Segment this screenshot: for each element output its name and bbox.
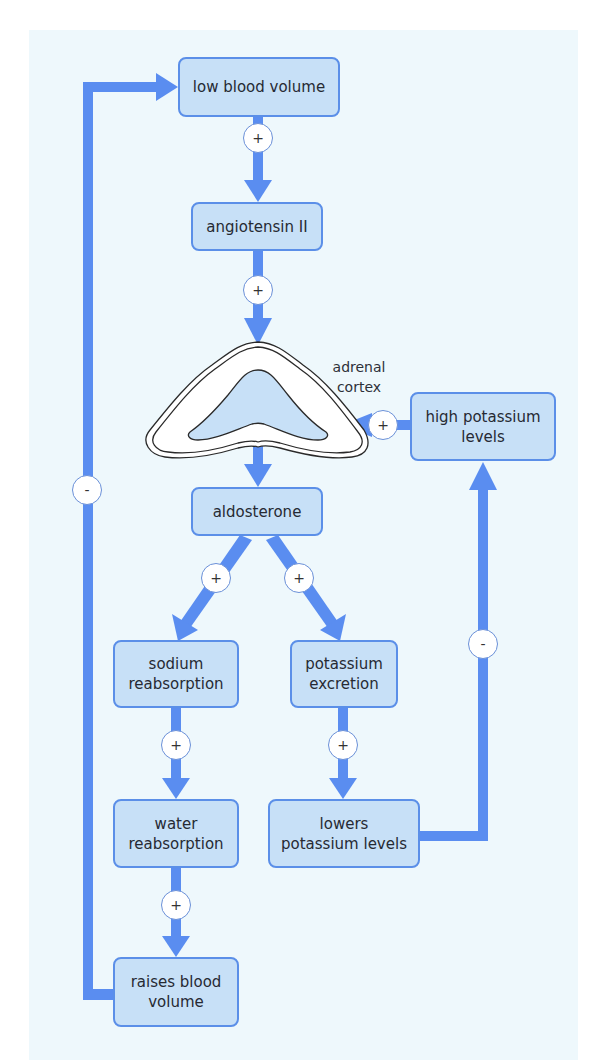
plus-sign-icon: + xyxy=(161,730,191,760)
node-label: aldosterone xyxy=(213,502,302,522)
node-label: raises blood volume xyxy=(131,972,222,1012)
node-water-reabsorption: water reabsorption xyxy=(113,799,239,868)
minus-sign-icon: - xyxy=(468,629,498,659)
plus-sign-icon: + xyxy=(328,730,358,760)
node-lowers-potassium-levels: lowers potassium levels xyxy=(268,799,420,868)
minus-sign-icon: - xyxy=(72,475,102,505)
node-label: lowers potassium levels xyxy=(281,814,407,854)
node-label: high potassium levels xyxy=(425,407,540,447)
node-sodium-reabsorption: sodium reabsorption xyxy=(113,640,239,708)
plus-sign-icon: + xyxy=(201,563,231,593)
node-label: angiotensin II xyxy=(206,217,307,237)
node-angiotensin-ii: angiotensin II xyxy=(191,202,323,251)
node-label: low blood volume xyxy=(193,77,325,97)
plus-sign-icon: + xyxy=(161,890,191,920)
node-label: potassium excretion xyxy=(305,654,383,694)
node-raises-blood-volume: raises blood volume xyxy=(113,957,239,1027)
node-low-blood-volume: low blood volume xyxy=(178,57,340,117)
plus-sign-icon: + xyxy=(284,563,314,593)
node-potassium-excretion: potassium excretion xyxy=(290,640,398,708)
plus-sign-icon: + xyxy=(243,123,273,153)
plus-sign-icon: + xyxy=(243,275,273,305)
node-high-potassium-levels: high potassium levels xyxy=(410,392,556,461)
adrenal-cortex-label: adrenal cortex xyxy=(322,357,396,397)
node-label: sodium reabsorption xyxy=(128,654,223,694)
node-label: water reabsorption xyxy=(128,814,223,854)
plus-sign-icon: + xyxy=(368,410,398,440)
node-aldosterone: aldosterone xyxy=(191,487,323,536)
